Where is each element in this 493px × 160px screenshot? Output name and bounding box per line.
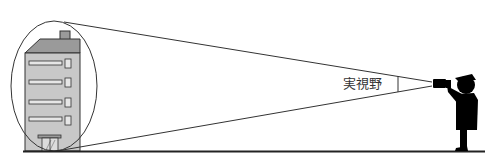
window-long (29, 61, 62, 65)
cone-line-top (64, 22, 432, 82)
field-of-view-label: 実視野 (343, 77, 382, 90)
entrance-canopy (38, 135, 61, 138)
window-small (65, 78, 71, 87)
window-small (65, 98, 71, 107)
window-long (29, 80, 62, 84)
field-of-view-diagram (0, 0, 493, 160)
window-small (65, 59, 71, 68)
cone-line-bottom (57, 86, 432, 151)
building-roof (25, 39, 80, 53)
window-long (29, 100, 62, 104)
window-long (29, 117, 62, 121)
binoculars-icon (433, 79, 446, 88)
window-small (65, 116, 71, 125)
person-silhouette (433, 74, 478, 151)
building (25, 31, 80, 151)
